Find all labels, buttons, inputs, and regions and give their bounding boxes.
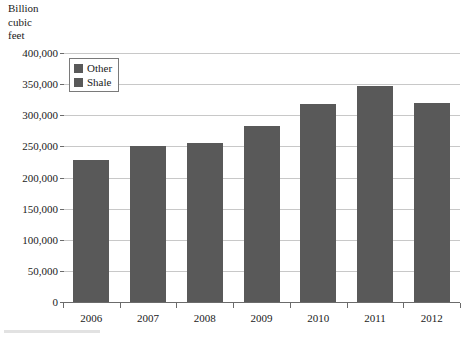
y-axis-tick-labels: 050,000100,000150,000200,000250,000300,0…: [0, 0, 58, 338]
x-axis-tick-label: 2010: [288, 312, 348, 324]
bar: [414, 103, 450, 302]
y-axis-tick-mark: [60, 84, 64, 85]
gridline: [63, 53, 460, 54]
x-axis-tick-mark: [63, 303, 64, 308]
x-axis-tick-mark: [460, 303, 461, 308]
y-axis-tick-mark: [60, 240, 64, 241]
x-axis-tick-label: 2009: [232, 312, 292, 324]
scan-artifact: [4, 330, 100, 333]
legend-label-other: Other: [87, 62, 112, 74]
bar: [244, 126, 280, 302]
x-axis-tick-mark: [403, 303, 404, 308]
x-axis-tick-mark: [290, 303, 291, 308]
x-axis-tick-label: 2007: [118, 312, 178, 324]
y-axis-tick-mark: [60, 146, 64, 147]
y-axis-tick-label: 150,000: [2, 204, 58, 215]
x-axis-tick-label: 2012: [402, 312, 462, 324]
y-axis-tick-label: 0: [2, 297, 58, 308]
x-axis-tick-label: 2011: [345, 312, 405, 324]
x-axis-tick-label: 2006: [61, 312, 121, 324]
legend-item-shale: Shale: [74, 76, 112, 88]
y-axis-tick-mark: [60, 271, 64, 272]
x-axis-tick-mark: [233, 303, 234, 308]
x-axis-tick-mark: [120, 303, 121, 308]
legend-swatch-other: [74, 64, 83, 73]
x-axis-tick-mark: [176, 303, 177, 308]
bar: [73, 160, 109, 302]
y-axis-tick-label: 400,000: [2, 48, 58, 59]
bar: [300, 104, 336, 302]
x-axis-line: [63, 302, 460, 303]
bar: [130, 146, 166, 302]
y-axis-tick-label: 250,000: [2, 141, 58, 152]
y-axis-tick-label: 350,000: [2, 79, 58, 90]
bar: [357, 86, 393, 302]
y-axis-tick-mark: [60, 53, 64, 54]
x-axis-tick-mark: [347, 303, 348, 308]
legend-label-shale: Shale: [87, 76, 111, 88]
gridline: [63, 115, 460, 116]
y-axis-tick-mark: [60, 115, 64, 116]
bar-chart: Billion cubic feet 050,000100,000150,000…: [0, 0, 468, 338]
y-axis-tick-mark: [60, 178, 64, 179]
legend-item-other: Other: [74, 62, 112, 74]
gridline: [63, 84, 460, 85]
x-axis-tick-label: 2008: [175, 312, 235, 324]
y-axis-tick-label: 100,000: [2, 235, 58, 246]
legend-swatch-shale: [74, 78, 83, 87]
y-axis-tick-label: 50,000: [2, 266, 58, 277]
y-axis-tick-label: 200,000: [2, 173, 58, 184]
bar: [187, 143, 223, 302]
plot-area: [63, 53, 460, 302]
y-axis-tick-mark: [60, 209, 64, 210]
chart-legend: Other Shale: [69, 58, 119, 92]
y-axis-tick-label: 300,000: [2, 110, 58, 121]
